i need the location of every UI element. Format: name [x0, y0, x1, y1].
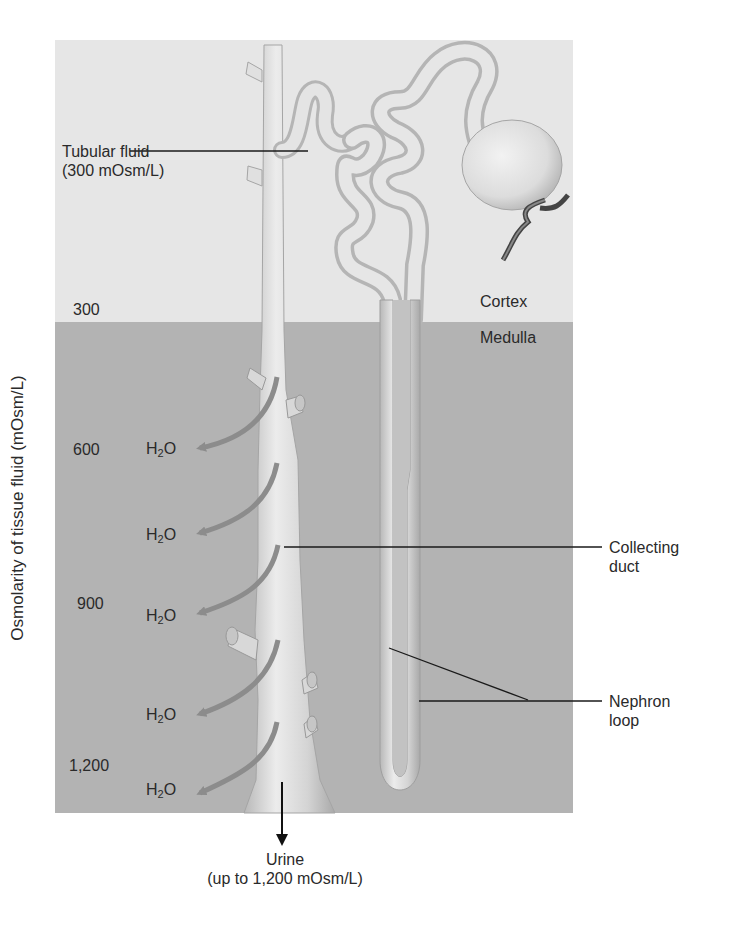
h2o-h: H [146, 607, 158, 624]
tubular-fluid-value: (300 mOsm/L) [62, 161, 164, 180]
h2o-label: H2O [146, 607, 176, 626]
h2o-label: H2O [146, 526, 176, 545]
tick-900: 900 [77, 595, 104, 613]
h2o-h: H [146, 781, 158, 798]
h2o-h: H [146, 526, 158, 543]
h2o-label: H2O [146, 781, 176, 800]
urine-title: Urine [180, 850, 390, 869]
h2o-o: O [164, 526, 176, 543]
tubular-fluid-title: Tubular fluid [62, 142, 164, 161]
medulla-label: Medulla [480, 328, 536, 347]
tick-1200: 1,200 [69, 757, 109, 775]
collecting-duct-label: Collecting duct [609, 538, 679, 576]
h2o-label: H2O [146, 440, 176, 459]
h2o-label: H2O [146, 706, 176, 725]
h2o-o: O [164, 781, 176, 798]
nephron-loop-line2: loop [609, 711, 670, 730]
tick-300: 300 [73, 301, 100, 319]
nephron-loop-label: Nephron loop [609, 692, 670, 730]
h2o-o: O [164, 607, 176, 624]
collecting-duct-line1: Collecting [609, 538, 679, 557]
cortex-label: Cortex [480, 292, 527, 311]
h2o-o: O [164, 706, 176, 723]
nephron-loop-line1: Nephron [609, 692, 670, 711]
tubular-fluid-label: Tubular fluid (300 mOsm/L) [62, 142, 164, 180]
h2o-h: H [146, 706, 158, 723]
h2o-h: H [146, 440, 158, 457]
tick-600: 600 [73, 441, 100, 459]
nephron-illustration [0, 0, 737, 926]
urine-label: Urine (up to 1,200 mOsm/L) [180, 850, 390, 888]
y-axis-label: Osmolarity of tissue fluid (mOsm/L) [8, 328, 28, 688]
collecting-duct-line2: duct [609, 557, 679, 576]
nephron-loop-shape [380, 300, 420, 790]
urine-value: (up to 1,200 mOsm/L) [180, 869, 390, 888]
h2o-o: O [164, 440, 176, 457]
